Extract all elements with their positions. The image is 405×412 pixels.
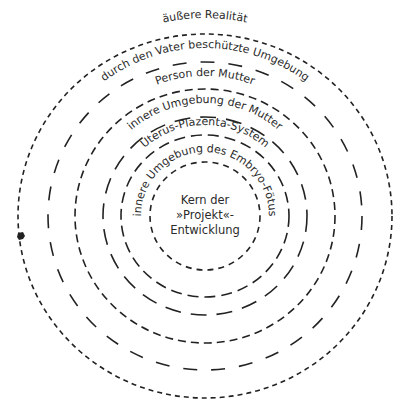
label-aeussere-realitaet: äußere Realität — [161, 8, 249, 26]
center-label-line-3: Entwicklung — [170, 223, 240, 237]
ink-blot-mark — [17, 232, 25, 240]
diagram-canvas: äußere Realitätdurch den Vater beschützt… — [0, 0, 405, 412]
concentric-circles-diagram: äußere Realitätdurch den Vater beschützt… — [0, 0, 405, 412]
ink-blot-icon — [17, 232, 25, 240]
center-label-line-1: Kern der — [181, 193, 230, 207]
center-label-line-2: »Projekt«- — [176, 208, 234, 222]
center-label: Kern der »Projekt«- Entwicklung — [170, 193, 240, 237]
label-person-mutter: Person der Mutter — [153, 66, 257, 88]
